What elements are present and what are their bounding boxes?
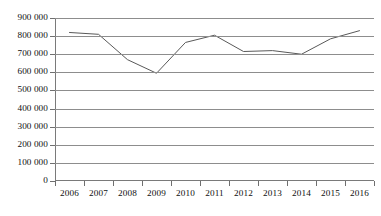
y-axis-tick xyxy=(50,36,55,37)
x-axis-tick xyxy=(84,181,85,186)
y-axis-labels: 900 000800 000700 000600 000500 000400 0… xyxy=(0,0,52,216)
x-axis-tick-label: 2006 xyxy=(60,188,79,199)
x-axis-tick xyxy=(142,181,143,186)
line-chart: 900 000800 000700 000600 000500 000400 0… xyxy=(0,0,381,216)
y-axis-tick xyxy=(50,127,55,128)
y-axis-tick xyxy=(50,109,55,110)
y-axis-tick-label: 900 000 xyxy=(17,13,48,22)
x-axis-tick xyxy=(171,181,172,186)
x-axis-tick-label: 2008 xyxy=(118,188,137,199)
y-axis-tick-label: 500 000 xyxy=(17,86,48,95)
x-axis-tick xyxy=(374,181,375,186)
gridline xyxy=(55,127,374,128)
y-axis-tick xyxy=(50,72,55,73)
y-axis-tick xyxy=(50,90,55,91)
gridline xyxy=(55,90,374,91)
gridline xyxy=(55,163,374,164)
y-axis-tick-label: 400 000 xyxy=(17,104,48,113)
x-axis-tick xyxy=(113,181,114,186)
x-axis-tick-label: 2013 xyxy=(263,188,282,199)
y-axis-tick-label: 0 xyxy=(43,176,48,185)
x-axis-tick xyxy=(316,181,317,186)
x-axis-tick xyxy=(287,181,288,186)
y-axis-tick xyxy=(50,145,55,146)
y-axis-tick xyxy=(50,163,55,164)
y-axis-tick-label: 600 000 xyxy=(17,68,48,77)
x-axis-labels: 2006200720082009201020112012201320142015… xyxy=(55,188,374,208)
x-axis-tick xyxy=(229,181,230,186)
data-series-layer xyxy=(55,18,374,181)
y-axis-tick-label: 300 000 xyxy=(17,122,48,131)
x-axis-tick-label: 2012 xyxy=(234,188,253,199)
gridline xyxy=(55,54,374,55)
y-axis-tick xyxy=(50,54,55,55)
y-axis-tick xyxy=(50,18,55,19)
gridline xyxy=(55,109,374,110)
plot-area xyxy=(55,18,374,181)
x-axis-tick-label: 2010 xyxy=(176,188,195,199)
y-axis-tick-label: 800 000 xyxy=(17,32,48,41)
x-axis-tick xyxy=(258,181,259,186)
gridline xyxy=(55,72,374,73)
gridline xyxy=(55,18,374,19)
y-axis-tick-label: 200 000 xyxy=(17,140,48,149)
gridline xyxy=(55,36,374,37)
x-axis-tick xyxy=(55,181,56,186)
y-axis-tick-label: 700 000 xyxy=(17,50,48,59)
x-axis-tick-label: 2015 xyxy=(321,188,340,199)
x-axis-tick-label: 2011 xyxy=(205,188,223,199)
x-axis-tick-label: 2007 xyxy=(89,188,108,199)
gridline xyxy=(55,145,374,146)
y-axis-tick-label: 100 000 xyxy=(17,158,48,167)
x-axis-tick-label: 2014 xyxy=(292,188,311,199)
x-axis-tick-label: 2016 xyxy=(350,188,369,199)
x-axis-tick xyxy=(345,181,346,186)
x-axis-tick xyxy=(200,181,201,186)
x-axis-tick-label: 2009 xyxy=(147,188,166,199)
